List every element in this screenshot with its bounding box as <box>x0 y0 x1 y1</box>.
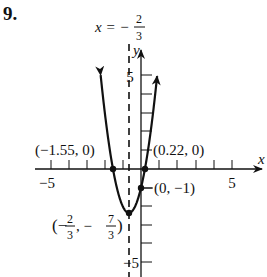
point-x-intercept-right <box>142 166 148 172</box>
label-y-intercept: (0, −1) <box>154 180 195 197</box>
axis-of-symmetry-label: x = − 2 3 <box>94 12 145 43</box>
x-axis-label: x <box>257 151 265 167</box>
vertex-open: (− <box>52 216 67 235</box>
problem-number: 9. <box>3 3 17 24</box>
vertex-num2: 7 <box>108 212 114 226</box>
graph-figure: 9. x = − 2 3 x −5 5 y 5 −5 <box>0 0 267 277</box>
aos-numerator: 2 <box>136 12 142 26</box>
label-left-intercept: (−1.55, 0) <box>35 142 95 159</box>
point-x-intercept-left <box>110 166 116 172</box>
y-tick-label-min: −5 <box>123 255 139 271</box>
vertex-den1: 3 <box>67 228 73 242</box>
label-right-intercept: (0.22, 0) <box>153 142 204 159</box>
point-vertex <box>126 210 132 216</box>
aos-denominator: 3 <box>136 29 142 43</box>
label-vertex: (− 2 3 , − 7 3 ) <box>52 212 123 242</box>
x-tick-label-min: −5 <box>39 175 55 191</box>
y-tick-label-max: 5 <box>126 69 134 85</box>
y-axis-label: y <box>131 42 140 58</box>
vertex-close: ) <box>117 216 123 235</box>
vertex-sep: , − <box>76 218 92 234</box>
aos-prefix: x = − <box>94 19 129 35</box>
vertex-den2: 3 <box>108 228 114 242</box>
x-tick-label-max: 5 <box>228 175 236 191</box>
vertex-num1: 2 <box>67 212 73 226</box>
